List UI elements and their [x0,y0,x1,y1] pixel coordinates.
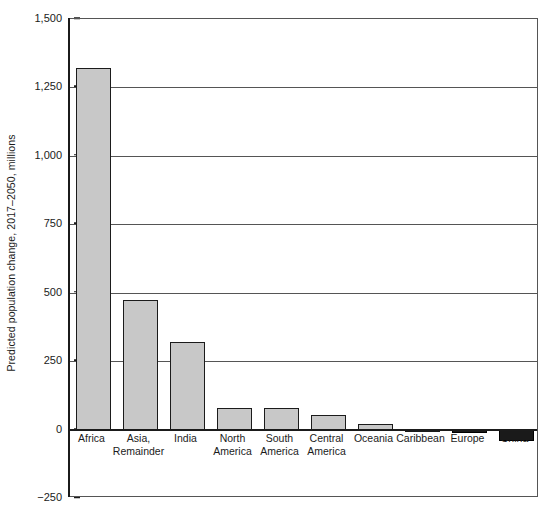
bar [170,342,206,430]
x-axis-tick-labels: AfricaAsia, RemainderIndiaNorth AmericaS… [68,432,538,482]
bar [264,408,300,430]
y-tick-label: 750 [16,217,62,229]
y-tick-label: 1,000 [16,149,62,161]
chart-figure: Predicted population change, 2017–2050, … [0,0,548,506]
zero-axis-line [68,429,538,431]
gridline [70,224,537,225]
y-tick-label: −250 [16,491,62,503]
plot-inner-frame [70,18,538,429]
bottom-frame-line [70,496,538,498]
y-axis-tick-labels: 1,5001,2501,0007505002500−250 [12,0,62,506]
y-tick-label: 500 [16,286,62,298]
bar [76,68,112,429]
plot-area [68,18,538,497]
gridline [70,293,537,294]
bar [123,300,159,430]
y-tick-label: 0 [16,423,62,435]
y-tick-label: 1,500 [16,12,62,24]
y-tick-label: 1,250 [16,80,62,92]
x-tick-label: China [483,432,546,445]
bar [311,415,347,430]
bar [217,408,253,430]
gridline [70,156,537,157]
y-tick-label: 250 [16,354,62,366]
gridline [70,87,537,88]
